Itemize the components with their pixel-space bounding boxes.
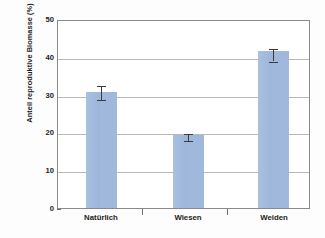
x-tick-label-weiden: Weiden — [244, 213, 304, 222]
plot-area — [57, 20, 310, 209]
x-tick-mark-2 — [227, 209, 228, 215]
y-tick-label-10: 10 — [30, 166, 54, 175]
y-tick-label-0: 0 — [30, 204, 54, 213]
error-bar-natuerlich — [101, 86, 102, 100]
x-tick-label-natuerlich: Natürlich — [71, 213, 131, 222]
x-tick-mark-1 — [142, 209, 143, 215]
bar-weiden[interactable] — [258, 51, 289, 208]
error-cap-upper-wiesen — [184, 134, 193, 135]
bar-wiesen[interactable] — [173, 135, 204, 208]
y-tick-label-30: 30 — [30, 91, 54, 100]
y-tick-label-50: 50 — [30, 15, 54, 24]
x-axis-line — [57, 208, 310, 209]
bar-natuerlich[interactable] — [86, 92, 117, 208]
error-cap-lower-wiesen — [184, 141, 193, 142]
error-cap-lower-weiden — [269, 62, 278, 63]
error-bar-wiesen — [188, 134, 189, 141]
bar-sheen — [258, 51, 272, 208]
y-tick-label-20: 20 — [30, 128, 54, 137]
x-tick-label-wiesen: Wiesen — [158, 213, 218, 222]
chart-figure: Anteil reproduktive Biomasse (%) 50 40 3… — [0, 0, 325, 238]
y-tick-label-40: 40 — [30, 53, 54, 62]
bar-sheen — [86, 92, 100, 208]
error-cap-upper-weiden — [269, 49, 278, 50]
error-bar-weiden — [273, 49, 274, 62]
error-cap-upper-natuerlich — [97, 86, 106, 87]
bar-sheen — [173, 135, 187, 208]
y-axis-tick-labels: 50 40 30 20 10 0 — [30, 20, 54, 209]
error-cap-lower-natuerlich — [97, 100, 106, 101]
